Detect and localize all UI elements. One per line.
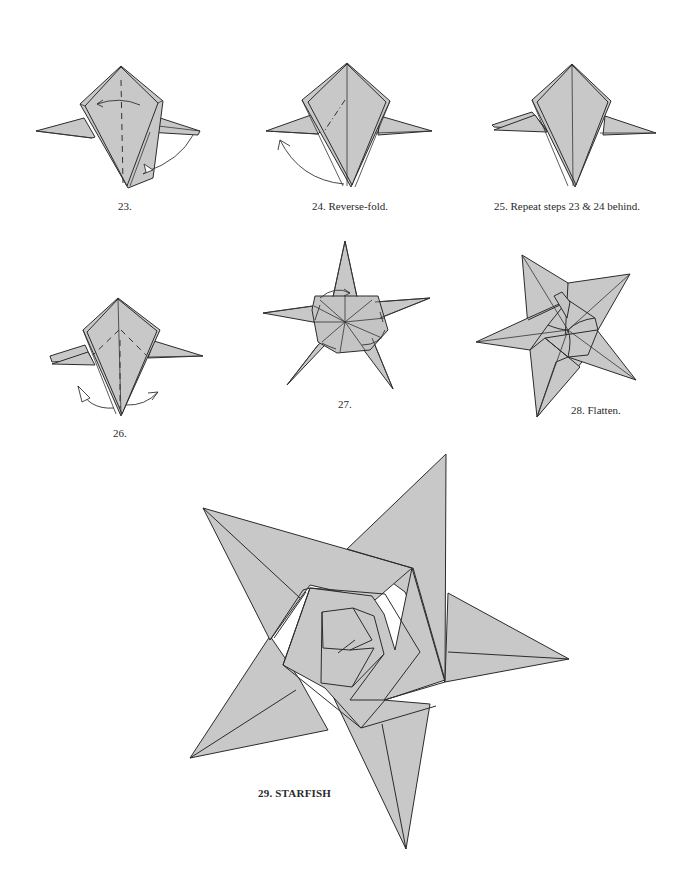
step-28-caption: 28. Flatten. [571,404,621,416]
step-23-diagram [0,0,685,896]
step-27-diagram [0,0,685,896]
step-29-starfish-diagram [0,0,685,896]
step-23-model [36,66,200,188]
step-26-diagram [0,0,685,896]
step-29-caption: 29. STARFISH [258,787,331,799]
step-28-model [476,255,636,417]
step-24-model [266,63,432,187]
step-24-diagram [0,0,685,896]
step-23-caption: 23. [118,200,132,212]
step-25-model [492,64,656,187]
step-26-model [50,298,203,416]
step-25-diagram [0,0,685,896]
step-27-model [263,241,430,389]
starfish-model [190,454,569,849]
step-25-caption: 25. Repeat steps 23 & 24 behind. [494,200,640,212]
step-28-diagram [0,0,685,896]
step-26-caption: 26. [113,427,127,439]
step-24-caption: 24. Reverse-fold. [312,200,388,212]
step-27-caption: 27. [338,398,352,410]
